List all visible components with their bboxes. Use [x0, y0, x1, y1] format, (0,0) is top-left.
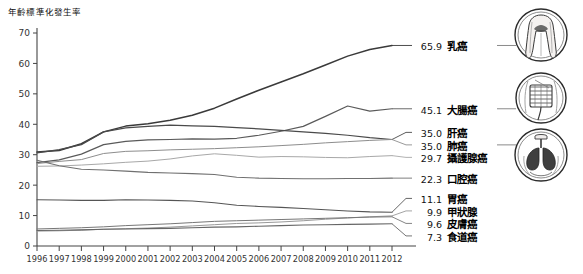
legend-leader-line — [392, 156, 412, 158]
legend-label: 食道癌 — [447, 229, 477, 244]
series-line — [37, 154, 392, 166]
y-tick-label: 50 — [19, 89, 31, 99]
series-line — [37, 200, 392, 212]
legend-leader-line — [392, 217, 412, 224]
anatomy-icon-column — [508, 0, 583, 274]
x-tick-label: 1999 — [93, 254, 114, 264]
x-tick-label: 2003 — [182, 254, 203, 264]
x-tick-label: 1998 — [71, 254, 92, 264]
legend-item: 45.1大腸癌 — [416, 102, 477, 117]
legend-label: 乳癌 — [447, 38, 467, 53]
legend-label: 攝護腺癌 — [447, 150, 487, 165]
cancer-incidence-chart: 年齡標準化發生率 0102030405060701996199719981999… — [0, 0, 583, 274]
legend-item: 65.9乳癌 — [416, 38, 467, 53]
x-tick-label: 2004 — [204, 254, 225, 264]
legend-value: 45.1 — [416, 105, 442, 116]
legend-item: 7.3食道癌 — [416, 229, 477, 244]
y-tick-label: 60 — [19, 59, 31, 69]
y-tick-label: 20 — [19, 181, 31, 191]
x-tick-label: 1997 — [49, 254, 70, 264]
series-line — [37, 160, 392, 179]
legend-item: 22.3口腔癌 — [416, 171, 477, 186]
x-tick-label: 2010 — [337, 254, 358, 264]
series-line — [37, 45, 392, 152]
x-tick-label: 2012 — [382, 254, 403, 264]
legend-leader-line — [392, 211, 412, 216]
x-tick-label: 2011 — [359, 254, 380, 264]
y-tick-label: 10 — [19, 211, 31, 221]
y-tick-label: 0 — [24, 241, 30, 251]
x-tick-label: 2006 — [248, 254, 269, 264]
legend-item: 29.7攝護腺癌 — [416, 150, 487, 165]
legend-label: 大腸癌 — [447, 102, 477, 117]
x-tick-label: 2001 — [138, 254, 159, 264]
legend-value: 22.3 — [416, 174, 442, 185]
legend-label: 口腔癌 — [447, 171, 477, 186]
legend-value: 65.9 — [416, 41, 442, 52]
y-tick-label: 40 — [19, 120, 31, 130]
x-tick-label: 2008 — [293, 254, 314, 264]
legend-leader-line — [392, 198, 412, 212]
y-tick-label: 70 — [19, 28, 31, 38]
legend-leader-line — [392, 132, 412, 139]
legend-leader-line — [392, 224, 412, 236]
legend-leader-line — [392, 140, 412, 145]
x-tick-label: 2002 — [160, 254, 181, 264]
x-tick-label: 2005 — [226, 254, 247, 264]
x-tick-label: 2007 — [271, 254, 292, 264]
series-line — [37, 140, 392, 164]
x-tick-label: 1996 — [27, 254, 48, 264]
y-tick-label: 30 — [19, 150, 31, 160]
legend-value: 29.7 — [416, 153, 442, 164]
x-tick-label: 2000 — [115, 254, 136, 264]
legend-value: 7.3 — [416, 232, 442, 243]
x-tick-label: 2009 — [315, 254, 336, 264]
